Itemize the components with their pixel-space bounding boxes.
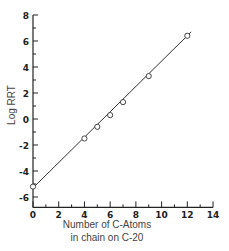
- x-tick-label: 2: [56, 210, 62, 220]
- y-tick-label: 4: [23, 63, 29, 73]
- data-point-circle: [146, 74, 151, 79]
- x-tick-label: 0: [30, 210, 36, 220]
- tick-marks: [33, 15, 213, 207]
- y-tick-label: -4: [19, 167, 29, 177]
- y-axis-label: Log RRT: [6, 85, 17, 125]
- x-axis-label-line1: Number of C-Atoms: [63, 219, 151, 230]
- tick-labels: 86420-2-4-602468101214: [19, 11, 219, 221]
- y-tick-label: 0: [23, 115, 29, 125]
- x-tick-label: 14: [207, 210, 220, 220]
- regression-line: [33, 32, 191, 188]
- data-point-circle: [95, 124, 100, 129]
- x-tick-label: 10: [155, 210, 168, 220]
- y-tick-label: -6: [19, 193, 29, 203]
- data-point-circle: [82, 136, 87, 141]
- chart: 86420-2-4-602468101214 Log RRT Number of…: [0, 0, 229, 251]
- data-point-circle: [120, 100, 125, 105]
- fit-line: [33, 32, 191, 188]
- y-tick-label: 8: [23, 11, 29, 21]
- x-axis-label-line2: in chain on C-20: [71, 232, 144, 243]
- y-tick-label: 2: [23, 89, 29, 99]
- y-tick-label: -2: [19, 141, 29, 151]
- data-point-circle: [30, 184, 35, 189]
- data-point-circle: [108, 113, 113, 118]
- axes: [33, 15, 213, 207]
- x-tick-label: 12: [181, 210, 194, 220]
- y-tick-label: 6: [23, 37, 29, 47]
- data-point-circle: [185, 33, 190, 38]
